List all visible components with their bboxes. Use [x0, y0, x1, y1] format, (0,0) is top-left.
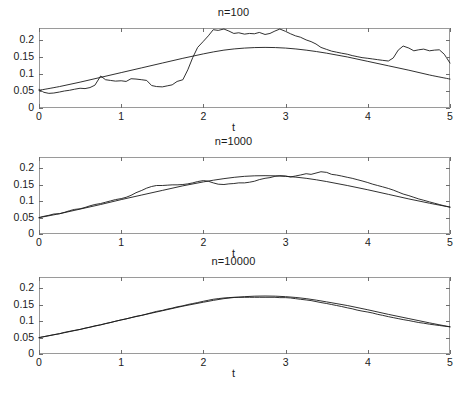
y-tick-mark-right [446, 168, 450, 169]
x-tick-mark [286, 230, 287, 234]
x-tick-mark [121, 230, 122, 234]
x-tick-mark [368, 230, 369, 234]
y-tick-label: 0.15 [0, 51, 34, 62]
plot-lines [39, 157, 450, 234]
x-tick-mark [121, 104, 122, 108]
y-tick-mark-right [446, 40, 450, 41]
y-tick-label: 0.05 [0, 332, 34, 343]
y-tick-mark [39, 321, 43, 322]
y-tick-mark-right [446, 57, 450, 58]
x-tick-mark [203, 104, 204, 108]
x-tick-mark-top [286, 157, 287, 161]
y-tick-mark [39, 57, 43, 58]
y-tick-mark-right [446, 234, 450, 235]
y-tick-mark-right [446, 108, 450, 109]
y-tick-label: 0.05 [0, 85, 34, 96]
x-tick-mark [450, 350, 451, 354]
x-tick-mark [286, 104, 287, 108]
y-tick-mark [39, 40, 43, 41]
x-tick-mark [450, 104, 451, 108]
y-tick-label: 0.05 [0, 212, 34, 223]
x-tick-mark-top [286, 28, 287, 32]
x-tick-mark [368, 350, 369, 354]
chart-title: n=100 [0, 6, 467, 18]
y-tick-mark [39, 218, 43, 219]
y-tick-label: 0.1 [0, 315, 34, 326]
x-tick-mark-top [39, 28, 40, 32]
x-tick-mark [39, 350, 40, 354]
x-tick-mark-top [450, 157, 451, 161]
x-tick-mark [368, 104, 369, 108]
y-tick-label: 0.2 [0, 162, 34, 173]
x-tick-mark-top [39, 277, 40, 281]
x-tick-mark [203, 230, 204, 234]
plot-lines [39, 28, 450, 108]
y-tick-label: 0.1 [0, 195, 34, 206]
y-tick-mark [39, 185, 43, 186]
y-tick-label: 0.1 [0, 68, 34, 79]
y-tick-mark-right [446, 74, 450, 75]
y-tick-mark [39, 234, 43, 235]
chart-title: n=10000 [0, 255, 467, 267]
y-tick-mark-right [446, 305, 450, 306]
y-tick-mark [39, 305, 43, 306]
y-tick-label: 0.2 [0, 34, 34, 45]
y-tick-mark-right [446, 218, 450, 219]
x-tick-mark-top [368, 277, 369, 281]
x-tick-mark [39, 230, 40, 234]
x-tick-mark [39, 104, 40, 108]
y-tick-mark [39, 91, 43, 92]
y-tick-mark [39, 168, 43, 169]
chart-title: n=1000 [0, 135, 467, 147]
y-tick-label: 0.2 [0, 282, 34, 293]
x-tick-mark [450, 230, 451, 234]
y-tick-mark [39, 288, 43, 289]
x-tick-mark-top [121, 28, 122, 32]
y-tick-mark [39, 201, 43, 202]
y-tick-label: 0.15 [0, 299, 34, 310]
x-tick-mark-top [121, 277, 122, 281]
x-tick-mark [121, 350, 122, 354]
y-tick-mark-right [446, 321, 450, 322]
y-tick-mark [39, 108, 43, 109]
x-tick-mark-top [121, 157, 122, 161]
y-tick-mark [39, 74, 43, 75]
y-tick-label: 0.15 [0, 179, 34, 190]
series-line-empirical [39, 29, 450, 93]
x-tick-mark-top [203, 28, 204, 32]
x-tick-mark-top [450, 277, 451, 281]
series-line-theoretical [39, 176, 450, 218]
x-axis-label: t [0, 367, 467, 379]
y-tick-mark [39, 354, 43, 355]
x-tick-mark-top [368, 28, 369, 32]
x-tick-mark [203, 350, 204, 354]
x-tick-mark-top [39, 157, 40, 161]
x-tick-mark-top [368, 157, 369, 161]
y-tick-mark-right [446, 185, 450, 186]
y-tick-mark-right [446, 91, 450, 92]
y-tick-mark [39, 338, 43, 339]
y-tick-mark-right [446, 288, 450, 289]
series-line-empirical [39, 297, 450, 337]
series-line-theoretical [39, 47, 450, 90]
plot-lines [39, 277, 450, 354]
x-tick-mark [286, 350, 287, 354]
x-tick-mark-top [286, 277, 287, 281]
figure-canvas: n=100 00.050.10.150.2 012345 t n=1000 00… [0, 0, 467, 395]
x-axis-label: t [0, 121, 467, 133]
y-tick-mark-right [446, 201, 450, 202]
x-tick-mark-top [203, 157, 204, 161]
y-tick-mark-right [446, 354, 450, 355]
x-tick-mark-top [450, 28, 451, 32]
y-tick-mark-right [446, 338, 450, 339]
x-tick-mark-top [203, 277, 204, 281]
